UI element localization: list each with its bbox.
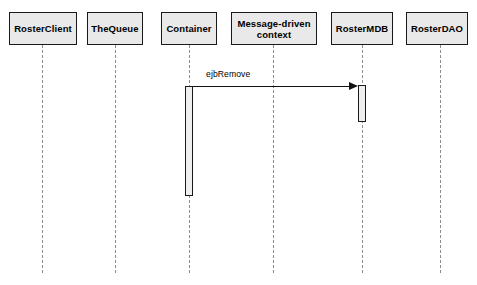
- participant-label-roster-client: RosterClient: [14, 23, 72, 34]
- lifeline-the-queue: [115, 45, 116, 273]
- participant-label-roster-dao: RosterDAO: [411, 23, 463, 34]
- participant-roster-dao[interactable]: RosterDAO: [406, 12, 468, 45]
- message-line-ejb-remove: [193, 86, 349, 87]
- participant-roster-mdb[interactable]: RosterMDB: [331, 12, 393, 45]
- lifeline-roster-dao: [440, 45, 441, 273]
- lifeline-roster-mdb: [362, 45, 363, 273]
- message-arrowhead-ejb-remove: [349, 82, 358, 90]
- sequence-diagram-canvas: RosterClient TheQueue Container Message-…: [0, 0, 477, 285]
- participant-container[interactable]: Container: [161, 12, 217, 45]
- participant-roster-client[interactable]: RosterClient: [9, 12, 77, 45]
- participant-label-the-queue: TheQueue: [91, 23, 138, 34]
- participant-label-roster-mdb: RosterMDB: [336, 23, 389, 34]
- participant-the-queue[interactable]: TheQueue: [87, 12, 143, 45]
- participant-label-container: Container: [166, 23, 211, 34]
- lifeline-message-driven-context: [273, 45, 274, 273]
- message-label-ejb-remove: ejbRemove: [206, 69, 250, 79]
- activation-bar-roster-mdb: [358, 85, 366, 122]
- participant-label-message-driven-context: Message-driven context: [237, 18, 310, 40]
- lifeline-roster-client: [42, 45, 43, 273]
- activation-bar-container: [185, 86, 193, 196]
- participant-message-driven-context[interactable]: Message-driven context: [231, 12, 317, 45]
